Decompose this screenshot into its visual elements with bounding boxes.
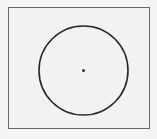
center-point-icon <box>82 69 85 72</box>
diagram-canvas <box>0 0 157 139</box>
